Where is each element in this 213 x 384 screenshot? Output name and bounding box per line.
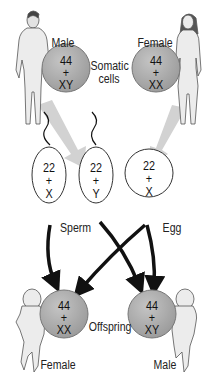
sperm-label: Sperm bbox=[60, 222, 90, 235]
sperm-y-text: 22 + Y bbox=[87, 162, 105, 201]
arrow-spermy-to-male bbox=[100, 222, 139, 285]
egg-label: Egg bbox=[161, 222, 182, 235]
arrow-egg-to-male bbox=[147, 225, 154, 286]
offspring-label: Offspring bbox=[89, 321, 129, 334]
offspring-female-text: 44 + XX bbox=[55, 300, 73, 336]
parent-male-label: Male bbox=[50, 37, 76, 50]
offspring-male-label: Male bbox=[152, 359, 178, 372]
sperm-x-sex: X bbox=[40, 188, 58, 201]
sperm-tail-y bbox=[91, 112, 96, 145]
egg-text: 22 + X bbox=[140, 160, 158, 199]
male-sex-chromosomes: XY bbox=[57, 79, 75, 91]
female-sex-chromosomes: XX bbox=[147, 79, 165, 91]
arrow-spermx-to-female bbox=[48, 225, 55, 283]
sperm-x-text: 22 + X bbox=[40, 162, 58, 201]
sperm-y-sex: Y bbox=[87, 188, 105, 201]
offspring-female-sex: XX bbox=[55, 324, 73, 336]
offspring-male-sex: XY bbox=[143, 324, 161, 336]
offspring-female-label: Female bbox=[40, 359, 75, 372]
parent-female-label: Female bbox=[137, 37, 174, 50]
male-somatic-text: 44 + XY bbox=[57, 55, 75, 91]
offspring-male-text: 44 + XY bbox=[143, 300, 161, 336]
egg-sex: X bbox=[140, 186, 158, 199]
somatic-cells-label: Somaticcells bbox=[91, 60, 128, 86]
female-somatic-text: 44 + XX bbox=[147, 55, 165, 91]
